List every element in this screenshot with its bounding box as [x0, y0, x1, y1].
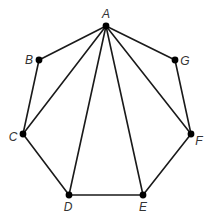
- heptagon-diagram: ABCDEFG: [0, 0, 210, 219]
- vertex-d-dot: [66, 192, 73, 199]
- edge-ga: [106, 26, 175, 60]
- vertex-g-dot: [172, 57, 179, 64]
- vertex-b-dot: [36, 57, 43, 64]
- vertex-d-label: D: [64, 200, 73, 214]
- vertex-c-dot: [20, 131, 27, 138]
- vertex-b-label: B: [25, 53, 33, 67]
- vertices-group: [20, 23, 195, 199]
- vertex-g-label: G: [180, 54, 189, 68]
- vertex-e-dot: [140, 192, 147, 199]
- vertex-c-label: C: [9, 130, 18, 144]
- vertex-e-label: E: [139, 200, 148, 214]
- vertex-f-label: F: [195, 134, 203, 148]
- edge-ab: [39, 26, 106, 60]
- edge-ef: [143, 134, 191, 195]
- labels-group: ABCDEFG: [9, 7, 204, 214]
- vertex-a-dot: [103, 23, 110, 30]
- vertex-a-label: A: [101, 7, 110, 21]
- edge-ae: [106, 26, 143, 195]
- vertex-f-dot: [188, 131, 195, 138]
- edge-af: [106, 26, 191, 134]
- edge-cd: [23, 134, 69, 195]
- edges-group: [23, 26, 191, 195]
